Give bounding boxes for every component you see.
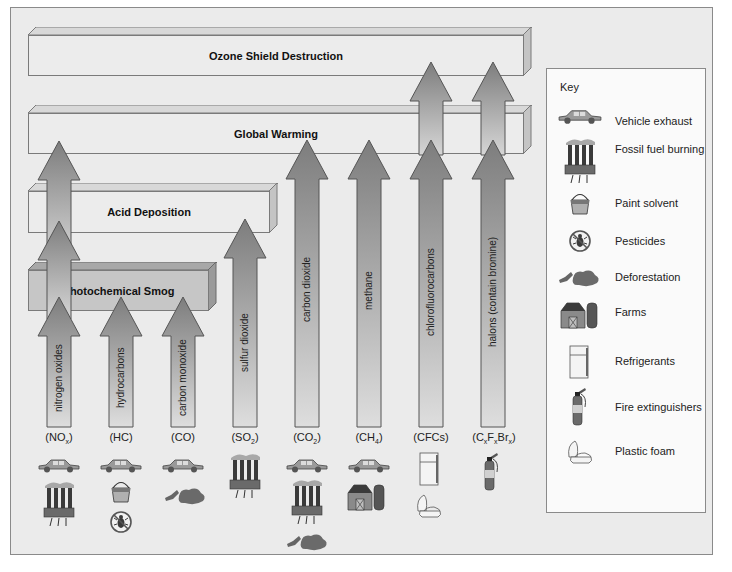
carbon-dioxide-label: carbon dioxide <box>301 257 312 322</box>
barn-silo-icon <box>346 481 388 511</box>
key-label: Paint solvent <box>615 197 678 209</box>
carbon-monoxide-label: carbon monoxide <box>177 339 188 416</box>
key-item-pesticides: Pesticides <box>547 229 705 259</box>
key-item-deforestation: Deforestation <box>547 266 705 296</box>
formula-cfcs: (CFCs) <box>401 431 461 443</box>
refrigerator-icon <box>418 452 440 486</box>
factory-smokestack-icon <box>42 480 76 528</box>
formula-co: (CO) <box>153 431 213 443</box>
car-icon <box>37 457 81 473</box>
chlorofluorocarbons-label: chlorofluorocarbons <box>425 248 436 336</box>
deforestation-icon <box>163 484 207 506</box>
nitrogen-oxides-label: nitrogen oxides <box>53 344 64 412</box>
key-label: Farms <box>615 306 646 318</box>
paint-bucket-icon <box>110 479 132 503</box>
fire-extinguisher-icon <box>481 452 503 492</box>
car-icon <box>557 105 603 127</box>
no-insect-icon <box>109 510 133 534</box>
ozone-shield-destruction-bar: Ozone Shield Destruction <box>28 27 532 76</box>
car-icon <box>347 457 391 473</box>
car-icon <box>285 457 329 473</box>
key-item-fire-extinguishers: Fire extinguishers <box>547 387 705 427</box>
key-item-farms: Farms <box>547 299 705 329</box>
factory-smokestack-icon <box>228 452 262 500</box>
key-item-fossil-fuel-burning: Fossil fuel burning <box>547 137 705 187</box>
key-title: Key <box>560 81 579 93</box>
key-label: Refrigerants <box>615 355 675 367</box>
halons-label: halons (contain bromine) <box>487 237 498 347</box>
car-icon <box>161 457 205 473</box>
refrigerator-icon <box>568 345 590 379</box>
methane-label: methane <box>363 271 374 310</box>
formula-hc: (HC) <box>91 431 151 443</box>
deforestation-icon <box>557 266 601 288</box>
key-item-paint-solvent: Paint solvent <box>547 191 705 221</box>
key-label: Deforestation <box>615 271 680 283</box>
fire-extinguisher-icon <box>569 387 591 427</box>
formula-ch4: (CH4) <box>339 431 399 445</box>
factory-smokestack-icon <box>563 137 597 185</box>
car-icon <box>99 457 143 473</box>
key-label: Plastic foam <box>615 445 675 457</box>
key-label: Fossil fuel burning <box>615 143 704 155</box>
foam-container-icon <box>414 493 444 519</box>
barn-silo-icon <box>559 299 601 329</box>
formula-halons: (CxFxBrx) <box>458 431 530 445</box>
key-legend: Key Vehicle exhaust Fossil fuel burning … <box>546 68 706 513</box>
no-insect-icon <box>568 229 592 253</box>
key-label: Pesticides <box>615 235 665 247</box>
key-label: Vehicle exhaust <box>615 115 692 127</box>
formula-co2: (CO2) <box>277 431 337 445</box>
key-item-plastic-foam: Plastic foam <box>547 439 705 469</box>
hydrocarbons-label: hydrocarbons <box>115 347 126 408</box>
sulfur-dioxide-label: sulfur dioxide <box>239 313 250 372</box>
key-item-vehicle-exhaust: Vehicle exhaust <box>547 107 705 137</box>
formula-so2: (SO2) <box>215 431 275 445</box>
key-item-refrigerants: Refrigerants <box>547 345 705 381</box>
key-label: Fire extinguishers <box>615 401 702 413</box>
foam-container-icon <box>565 439 595 465</box>
factory-smokestack-icon <box>290 478 324 526</box>
paint-bucket-icon <box>569 191 591 215</box>
global-warming-bar: Global Warming <box>28 105 532 154</box>
deforestation-icon <box>285 530 329 552</box>
formula-nox: (NOx) <box>29 431 89 445</box>
